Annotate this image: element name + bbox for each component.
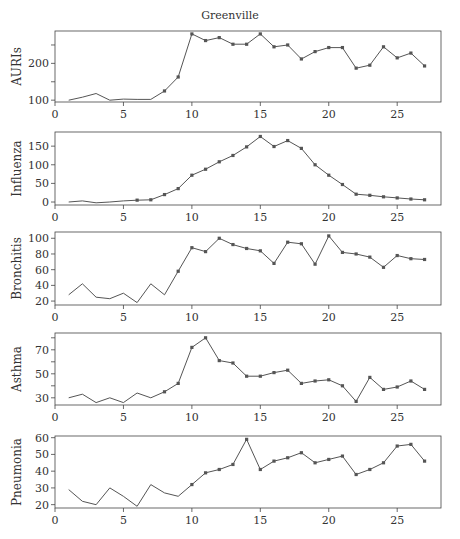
y-axis-label: Pneumonia xyxy=(10,438,24,506)
panel-auris: 1002000510152025AURIs xyxy=(10,31,441,121)
data-point-marker xyxy=(355,193,358,196)
data-point-marker xyxy=(245,438,248,441)
data-point-marker xyxy=(327,378,330,381)
data-point-marker xyxy=(286,369,289,372)
x-tick-label: 25 xyxy=(390,311,404,324)
data-point-marker xyxy=(272,262,275,265)
data-point-marker xyxy=(190,346,193,349)
data-point-marker xyxy=(409,51,412,54)
y-tick-label: 50 xyxy=(35,177,49,190)
x-tick-label: 0 xyxy=(52,211,59,224)
panel-asthma: 3050700510152025Asthma xyxy=(10,333,441,424)
x-tick-label: 10 xyxy=(185,311,199,324)
data-point-marker xyxy=(423,258,426,261)
y-tick-label: 200 xyxy=(28,57,49,70)
x-tick-label: 10 xyxy=(185,108,199,121)
x-tick-label: 0 xyxy=(52,514,59,527)
data-point-marker xyxy=(259,135,262,138)
y-axis-label: Bronchitis xyxy=(10,237,24,300)
y-tick-label: 30 xyxy=(35,482,49,495)
data-point-marker xyxy=(423,64,426,67)
data-point-marker xyxy=(396,254,399,257)
x-tick-label: 15 xyxy=(253,108,267,121)
data-point-marker xyxy=(300,147,303,150)
y-tick-label: 40 xyxy=(35,279,49,292)
data-point-marker xyxy=(190,174,193,177)
y-tick-label: 50 xyxy=(35,448,49,461)
data-point-marker xyxy=(272,145,275,148)
data-point-marker xyxy=(245,247,248,250)
x-tick-label: 0 xyxy=(52,411,59,424)
data-point-marker xyxy=(163,193,166,196)
y-tick-label: 60 xyxy=(35,264,49,277)
data-point-marker xyxy=(190,246,193,249)
x-tick-label: 20 xyxy=(322,514,336,527)
chart-panels: 1002000510152025AURIs0501001500510152025… xyxy=(0,0,460,539)
data-point-marker xyxy=(204,250,207,253)
x-tick-label: 5 xyxy=(120,411,127,424)
x-tick-label: 0 xyxy=(52,311,59,324)
y-tick-label: 20 xyxy=(35,295,49,308)
data-point-marker xyxy=(218,468,221,471)
data-point-marker xyxy=(272,460,275,463)
x-tick-label: 20 xyxy=(322,311,336,324)
data-point-marker xyxy=(341,384,344,387)
data-point-marker xyxy=(218,237,221,240)
x-tick-label: 5 xyxy=(120,311,127,324)
data-point-marker xyxy=(163,89,166,92)
data-point-marker xyxy=(341,454,344,457)
x-tick-label: 15 xyxy=(253,211,267,224)
y-tick-label: 150 xyxy=(28,140,49,153)
data-point-marker xyxy=(204,336,207,339)
x-tick-label: 25 xyxy=(390,108,404,121)
y-axis-label: AURIs xyxy=(10,47,24,87)
x-tick-label: 10 xyxy=(185,411,199,424)
data-point-marker xyxy=(259,375,262,378)
data-point-marker xyxy=(341,183,344,186)
panel-pneumonia: 20304050600510152025Pneumonia xyxy=(10,432,441,527)
data-point-marker xyxy=(382,266,385,269)
x-tick-label: 25 xyxy=(390,211,404,224)
data-point-marker xyxy=(245,43,248,46)
y-tick-label: 70 xyxy=(35,344,49,357)
data-point-marker xyxy=(259,468,262,471)
data-point-marker xyxy=(218,36,221,39)
data-point-marker xyxy=(382,461,385,464)
data-point-marker xyxy=(382,195,385,198)
data-point-marker xyxy=(231,463,234,466)
data-point-marker xyxy=(313,50,316,53)
series-line xyxy=(69,236,425,303)
data-point-marker xyxy=(177,75,180,78)
data-point-marker xyxy=(231,43,234,46)
y-tick-label: 60 xyxy=(35,432,49,445)
data-point-marker xyxy=(396,385,399,388)
data-point-marker xyxy=(409,257,412,260)
data-point-marker xyxy=(231,243,234,246)
data-point-marker xyxy=(368,468,371,471)
plot-frame xyxy=(55,333,441,405)
data-point-marker xyxy=(259,32,262,35)
series-line xyxy=(69,338,425,403)
data-point-marker xyxy=(396,196,399,199)
data-point-marker xyxy=(313,263,316,266)
data-point-marker xyxy=(218,359,221,362)
y-tick-label: 100 xyxy=(28,159,49,172)
data-point-marker xyxy=(300,382,303,385)
data-point-marker xyxy=(355,400,358,403)
x-tick-label: 20 xyxy=(322,108,336,121)
data-point-marker xyxy=(423,198,426,201)
data-point-marker xyxy=(218,160,221,163)
data-point-marker xyxy=(368,376,371,379)
data-point-marker xyxy=(163,390,166,393)
data-point-marker xyxy=(313,163,316,166)
data-point-marker xyxy=(259,249,262,252)
chart-title: Greenville xyxy=(0,9,460,22)
data-point-marker xyxy=(300,57,303,60)
data-point-marker xyxy=(177,187,180,190)
data-point-marker xyxy=(327,46,330,49)
data-point-marker xyxy=(382,388,385,391)
panel-bronchitis: 204060801000510152025Bronchitis xyxy=(10,232,441,324)
data-point-marker xyxy=(204,168,207,171)
x-tick-label: 15 xyxy=(253,514,267,527)
data-point-marker xyxy=(245,375,248,378)
